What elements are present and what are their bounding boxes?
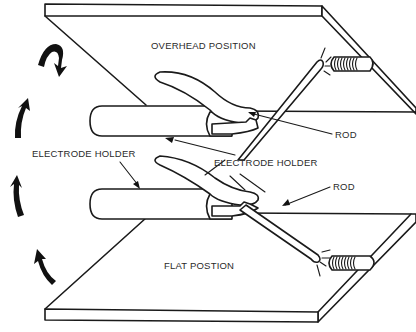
electrode-holder-left-label: ELECTRODE HOLDER (32, 148, 136, 159)
rod-top-label: ROD (335, 129, 357, 140)
lower-rod (240, 205, 330, 276)
overhead-position-label: OVERHEAD POSITION (151, 40, 256, 51)
flat-weld-bead (329, 256, 374, 270)
rod-bottom-label: ROD (333, 181, 355, 192)
rotation-arrow-icon (38, 44, 67, 77)
overhead-weld-bead (331, 57, 373, 71)
flat-position-label: FLAT POSTION (164, 260, 234, 271)
rotation-arrow-icon (15, 98, 30, 138)
rotation-arrow-icon (10, 175, 24, 217)
upper-rod (238, 48, 331, 160)
welding-positions-diagram: OVERHEAD POSITION ELECTRODE HOLDER ELECT… (0, 0, 416, 332)
upper-electrode-holder (90, 72, 258, 136)
electrode-holder-center-label: ELECTRODE HOLDER (214, 157, 318, 168)
rotation-arrows (10, 44, 67, 285)
rotation-arrow-icon (34, 249, 56, 285)
